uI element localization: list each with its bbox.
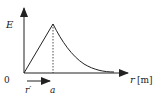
field-linear-segment xyxy=(24,24,53,73)
peak-position-label: a xyxy=(50,85,55,95)
r-prime-label: r′ xyxy=(25,85,31,95)
origin-label: 0 xyxy=(4,75,10,85)
field-decay-curve xyxy=(53,24,114,72)
field-diagram: E 0 r′ a r [m] xyxy=(0,0,156,100)
y-axis-label: E xyxy=(5,19,14,30)
x-axis-label-unit: [m] xyxy=(137,75,153,85)
x-axis-label-var: r xyxy=(130,74,136,85)
